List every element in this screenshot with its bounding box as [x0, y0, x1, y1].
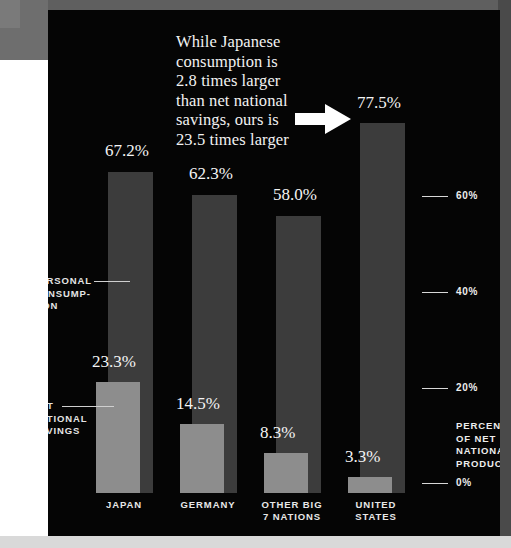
legend-leader-line	[62, 406, 114, 407]
bar-other-consumption	[276, 216, 321, 493]
category-label-line: GERMANY	[164, 499, 252, 511]
bar-japan-savings	[96, 382, 140, 493]
axis-tick-label: 60%	[456, 190, 478, 201]
chart-panel: While Japanese consumption is 2.8 times …	[48, 10, 500, 536]
axis-tick-label: 40%	[456, 286, 478, 297]
legend-label-line: PERSONAL	[48, 275, 92, 288]
category-label-line: JAPAN	[86, 499, 162, 511]
category-label-japan: JAPAN	[86, 499, 162, 511]
bar-value-other-consumption: 58.0%	[273, 185, 317, 205]
category-label-line: 7 NATIONS	[244, 511, 340, 523]
legend-leader-line	[94, 281, 130, 282]
legend-label-line: CONSUMP-	[48, 288, 92, 301]
bar-us-savings	[348, 477, 392, 493]
legend-label-line: SAVINGS	[48, 425, 88, 438]
category-label-line: OTHER BIG	[244, 499, 340, 511]
category-label-other: OTHER BIG 7 NATIONS	[244, 499, 340, 523]
bar-other-savings	[264, 453, 308, 493]
legend-label-line: TION	[48, 300, 92, 313]
bar-value-japan-savings: 23.3%	[92, 352, 136, 372]
axis-caption-line: NATIONAL	[456, 445, 500, 458]
category-label-us: UNITED STATES	[334, 499, 418, 523]
axis-caption-line: PERCENT	[456, 420, 500, 433]
axis-caption-line: OF NET	[456, 433, 500, 446]
axis-tick-label: 0%	[456, 477, 472, 488]
axis-tick-label: 20%	[456, 382, 478, 393]
decorative-corner-block-inner	[0, 0, 20, 28]
axis-caption: PERCENT OF NET NATIONAL PRODUCT	[456, 420, 500, 470]
bar-us-consumption	[360, 123, 405, 493]
decorative-top-strip	[48, 0, 511, 10]
bar-value-us-consumption: 77.5%	[357, 93, 401, 113]
plot-area: 67.2% 23.3% JAPAN 62.3% 14.5% GERMANY 58…	[48, 10, 500, 536]
chart-screenshot: While Japanese consumption is 2.8 times …	[0, 0, 511, 548]
legend-label-line: NATIONAL	[48, 413, 88, 426]
bar-value-japan-consumption: 67.2%	[105, 141, 149, 161]
bar-value-other-savings: 8.3%	[260, 423, 295, 443]
bar-value-us-savings: 3.3%	[345, 447, 380, 467]
bar-value-germany-savings: 14.5%	[176, 394, 220, 414]
category-label-line: STATES	[334, 511, 418, 523]
bar-germany-savings	[180, 424, 224, 493]
decorative-bottom-strip	[0, 536, 511, 548]
axis-caption-line: PRODUCT	[456, 458, 500, 471]
category-label-line: UNITED	[334, 499, 418, 511]
category-label-germany: GERMANY	[164, 499, 252, 511]
bar-value-germany-consumption: 62.3%	[189, 164, 233, 184]
